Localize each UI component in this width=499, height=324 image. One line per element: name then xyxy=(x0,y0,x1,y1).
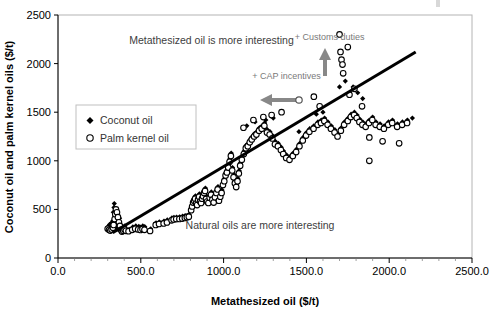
scatter-chart: 05001000150020002500 0.0500.01000.01500.… xyxy=(0,0,499,324)
annotation-natural-oils: Natural oils are more interesting xyxy=(186,219,335,231)
y-axis-ticks: 05001000150020002500 xyxy=(27,9,58,264)
x-tick-label: 2500.0 xyxy=(455,265,489,277)
data-point xyxy=(389,120,395,126)
y-tick-label: 500 xyxy=(33,203,51,215)
data-point xyxy=(380,139,386,145)
data-point xyxy=(241,125,247,131)
data-point xyxy=(367,135,373,141)
data-point xyxy=(404,120,410,126)
x-tick-label: 500.0 xyxy=(127,265,155,277)
data-point xyxy=(111,222,117,228)
data-point xyxy=(142,227,148,233)
data-point xyxy=(228,153,234,159)
data-point xyxy=(340,62,346,68)
data-point xyxy=(367,158,373,164)
clipped-artifact xyxy=(436,0,440,7)
data-point xyxy=(338,128,344,134)
y-tick-label: 2000 xyxy=(27,58,51,70)
data-point xyxy=(229,168,235,174)
data-point xyxy=(251,117,257,123)
data-point xyxy=(311,94,317,100)
legend: Coconut oil Palm kernel oil xyxy=(76,105,196,149)
data-point xyxy=(338,49,344,55)
x-axis-title: Metathesized oil ($/t) xyxy=(211,295,320,307)
y-axis-title: Coconut oil and palm kernel oils ($/t) xyxy=(3,40,15,233)
data-point xyxy=(279,109,285,115)
y-tick-label: 0 xyxy=(45,252,51,264)
y-tick-label: 1500 xyxy=(27,106,51,118)
data-point xyxy=(335,134,341,140)
data-point xyxy=(261,114,267,120)
legend-label-palm-kernel-oil: Palm kernel oil xyxy=(100,132,169,144)
x-tick-label: 0.0 xyxy=(50,265,65,277)
legend-label-coconut-oil: Coconut oil xyxy=(100,114,153,126)
x-tick-label: 2000.0 xyxy=(372,265,406,277)
data-point xyxy=(233,184,239,190)
data-point xyxy=(221,178,227,184)
data-point xyxy=(235,178,241,184)
y-tick-label: 1000 xyxy=(27,155,51,167)
data-point xyxy=(340,71,346,77)
data-point xyxy=(396,141,402,147)
data-point xyxy=(269,112,275,118)
y-tick-label: 2500 xyxy=(27,9,51,21)
x-tick-label: 1500.0 xyxy=(290,265,324,277)
data-point xyxy=(345,44,351,50)
data-point xyxy=(237,163,243,169)
annotation-metathesized-oil: Metathesized oil is more interesting xyxy=(129,34,294,46)
data-point xyxy=(359,104,365,110)
data-point xyxy=(236,171,242,177)
annotation-customs-duties: + Customs duties xyxy=(295,32,365,42)
data-point xyxy=(147,228,153,234)
data-point xyxy=(202,188,208,194)
data-point xyxy=(219,190,225,196)
legend-marker-open-circle xyxy=(87,135,93,141)
x-axis-ticks: 0.0500.01000.01500.02000.02500.0 xyxy=(50,258,488,277)
annotation-cap-incentives: + CAP incentives xyxy=(252,71,321,81)
x-tick-label: 1000.0 xyxy=(207,265,241,277)
chart-canvas: 05001000150020002500 0.0500.01000.01500.… xyxy=(0,0,499,324)
data-point xyxy=(297,143,303,149)
data-point xyxy=(262,123,268,129)
data-point xyxy=(293,149,299,155)
